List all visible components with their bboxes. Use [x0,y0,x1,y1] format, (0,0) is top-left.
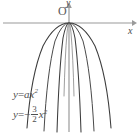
origin-label: O [58,5,67,17]
eq2-negative-sign: − [24,108,30,120]
x-axis-label: x [128,26,132,36]
figure-canvas: y x O y=ax2 y=−32x2 [0,0,140,135]
eq1-exponent: 2 [35,87,39,95]
eq2-fraction: 32 [31,105,38,124]
eq2-exponent: 2 [44,108,48,116]
equation-label-y-equals-minus-three-halves-x-squared: y=−32x2 [13,106,47,125]
eq2-numerator: 3 [31,105,38,114]
eq2-denominator: 2 [31,114,38,124]
x-axis-arrow-icon [132,20,137,26]
equation-label-y-equals-a-x-squared: y=ax2 [13,88,38,100]
